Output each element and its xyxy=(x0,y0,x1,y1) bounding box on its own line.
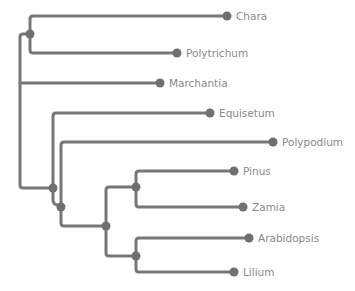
label-marchantia: Marchantia xyxy=(169,77,228,89)
tip-zamia xyxy=(239,203,248,212)
branch-root xyxy=(20,34,53,188)
label-chara: Chara xyxy=(236,10,267,22)
tip-lilium xyxy=(230,268,239,277)
label-lilium: Lilium xyxy=(243,266,275,278)
branch-zamia xyxy=(136,187,243,207)
label-pinus: Pinus xyxy=(243,165,271,177)
branch-euphyllophyte-to-seed xyxy=(61,207,106,226)
tip-polytrichum xyxy=(173,49,182,58)
branch-polytrichum xyxy=(30,34,177,53)
label-zamia: Zamia xyxy=(252,201,285,213)
tip-equisetum xyxy=(206,109,215,118)
branch-seed-to-gymnosperms xyxy=(106,187,136,226)
tip-arabidopsis xyxy=(245,234,254,243)
tip-chara xyxy=(223,12,232,21)
branch-polypodium xyxy=(61,142,273,207)
label-polytrichum: Polytrichum xyxy=(186,47,248,59)
node-euphyllophytes xyxy=(57,203,66,212)
branch-arabidopsis xyxy=(136,238,249,256)
branch-lilium xyxy=(136,256,234,272)
label-arabidopsis: Arabidopsis xyxy=(258,232,319,244)
branch-equisetum xyxy=(53,113,210,188)
phylogenetic-tree: Chara Polytrichum Marchantia Equisetum P… xyxy=(0,0,355,291)
tip-polypodium xyxy=(269,138,278,147)
node-angiosperms xyxy=(132,252,141,261)
label-polypodium: Polypodium xyxy=(282,136,343,148)
branch-chara xyxy=(30,16,227,34)
tip-marchantia xyxy=(156,79,165,88)
branch-seed-to-angiosperms xyxy=(106,226,136,256)
node-vascular-plants xyxy=(49,184,58,193)
tip-pinus xyxy=(230,167,239,176)
label-equisetum: Equisetum xyxy=(219,107,275,119)
node-gymnosperms xyxy=(132,183,141,192)
node-chara-polytrichum xyxy=(26,30,35,39)
node-seed-plants xyxy=(102,222,111,231)
branch-pinus xyxy=(136,171,234,187)
